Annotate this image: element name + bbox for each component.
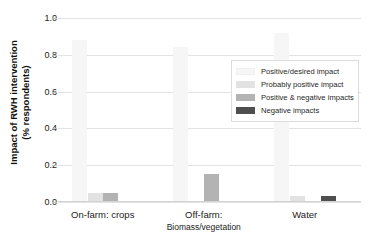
legend-swatch [236,94,255,101]
y-tick-mark [52,55,57,56]
y-axis-title: Impact of RWH intervention (% respondent… [2,0,36,205]
legend-swatch [236,107,255,114]
bar [72,40,87,202]
y-tick-mark [52,18,57,19]
legend-item: Negative impacts [236,104,353,117]
gridline [58,18,361,19]
axis-baseline [58,201,361,202]
y-tick-mark [52,128,57,129]
y-axis-title-line1: Impact of RWH intervention [8,40,19,164]
legend-label: Positive/desired impact [261,67,339,76]
legend: Positive/desired impactProbably positive… [231,60,359,122]
gridline [58,55,361,56]
legend-swatch [236,81,255,88]
x-tick-label: Water [245,208,365,221]
y-tick-mark [52,165,57,166]
legend-item: Positive & negative impacts [236,91,353,104]
gridline [58,165,361,166]
y-tick-mark [52,92,57,93]
legend-item: Probably positive impact [236,78,353,91]
bar [204,174,219,202]
y-tick-mark [52,202,57,203]
legend-label: Positive & negative impacts [261,93,354,102]
legend-label: Probably positive impact [261,80,343,89]
y-axis-title-line2: (% respondents) [19,40,31,164]
legend-item: Positive/desired impact [236,65,353,78]
gridline [58,202,361,203]
bar [173,47,188,202]
chart-figure: Impact of RWH intervention (% respondent… [0,0,370,240]
legend-swatch [236,68,255,75]
gridline [58,128,361,129]
legend-label: Negative impacts [261,106,319,115]
